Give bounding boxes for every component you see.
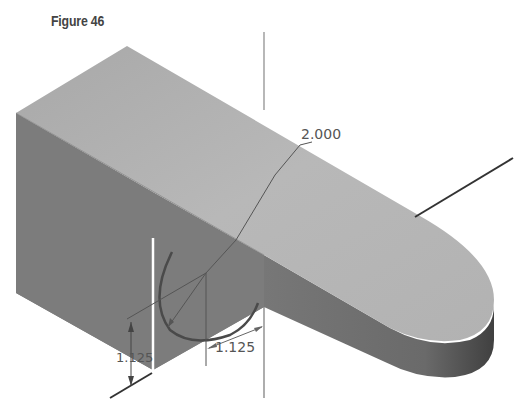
- radius-shoulder: [300, 142, 312, 145]
- horizontal-offset-label: 1.125: [215, 339, 255, 355]
- radius-dimension-label: 2.000: [301, 126, 341, 142]
- vertical-offset-label: 1.125: [116, 350, 153, 365]
- hdim-arrow-right-icon: [254, 326, 263, 332]
- horizontal-axis-line: [415, 158, 513, 217]
- isometric-part-drawing: 2.000 1.125 1.125: [0, 0, 529, 418]
